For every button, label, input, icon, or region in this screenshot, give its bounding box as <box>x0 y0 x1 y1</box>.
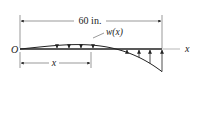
beam-load-diagram: 60 in. x O w(x) x <box>0 0 198 114</box>
axis-label: x <box>184 43 190 54</box>
load-label-leader <box>93 33 104 38</box>
load-label: w(x) <box>106 27 123 38</box>
position-label: x <box>51 57 57 68</box>
origin-label: O <box>11 44 18 55</box>
span-label: 60 in. <box>79 15 102 26</box>
